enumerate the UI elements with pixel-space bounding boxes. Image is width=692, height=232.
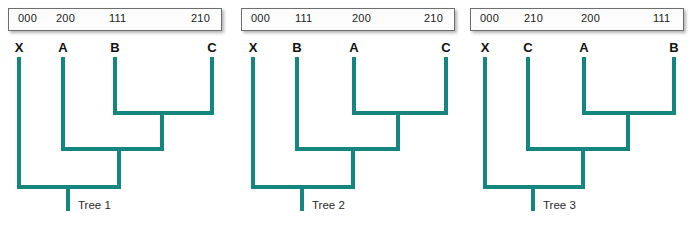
state-row-box-3: 000 210 200 111 <box>470 8 684 31</box>
state-code: 111 <box>295 12 312 24</box>
taxon-label-a: A <box>576 40 592 55</box>
branch-root-stem <box>531 185 535 211</box>
state-code: 111 <box>653 12 670 24</box>
state-code: 200 <box>56 12 75 24</box>
taxon-label-c: C <box>520 40 536 55</box>
tree-panel-1: 000 200 111 210 X A B C Tree 1 <box>0 0 232 232</box>
branch-stem-abc <box>117 147 121 189</box>
taxon-label-c: C <box>204 40 220 55</box>
state-row-box-1: 000 200 111 210 <box>8 8 222 31</box>
branch-root-stem <box>66 185 70 211</box>
state-code: 000 <box>480 12 499 24</box>
state-code: 000 <box>251 12 270 24</box>
tree-caption: Tree 3 <box>543 199 576 211</box>
state-code: 000 <box>18 12 37 24</box>
branch-node-ac <box>352 111 448 115</box>
state-row-box-2: 000 111 200 210 <box>241 8 455 31</box>
taxon-label-x: X <box>477 40 493 55</box>
state-code: 200 <box>352 12 371 24</box>
branch-node-abc <box>61 147 164 151</box>
state-code: 210 <box>424 12 443 24</box>
branch-stem-bc <box>160 111 164 151</box>
tree-caption: Tree 2 <box>312 199 345 211</box>
cladogram-figure: 000 200 111 210 X A B C Tree 1 000 111 2… <box>0 0 692 232</box>
state-code: 111 <box>109 12 126 24</box>
taxon-label-c: C <box>438 40 454 55</box>
branch-tip-b <box>672 57 676 115</box>
taxon-label-a: A <box>55 40 71 55</box>
taxon-label-b: B <box>289 40 305 55</box>
branch-tip-x <box>17 57 21 187</box>
branch-tip-c <box>526 57 530 151</box>
tree-panel-2: 000 111 200 210 X B A C Tree 2 <box>234 0 466 232</box>
branch-tip-b <box>113 57 117 115</box>
branch-tip-a <box>352 57 356 115</box>
branch-node-bac <box>295 147 400 151</box>
branch-node-cab <box>526 147 630 151</box>
state-code: 210 <box>191 12 210 24</box>
tree-caption: Tree 1 <box>78 199 111 211</box>
state-code: 210 <box>524 12 543 24</box>
branch-stem-bac <box>351 147 355 189</box>
state-code: 200 <box>581 12 600 24</box>
branch-stem-ab <box>626 111 630 151</box>
branch-tip-a <box>582 57 586 115</box>
taxon-label-a: A <box>346 40 362 55</box>
tree-panel-3: 000 210 200 111 X C A B Tree 3 <box>467 0 692 232</box>
branch-tip-b <box>295 57 299 151</box>
taxon-label-x: X <box>11 40 27 55</box>
branch-stem-ac <box>396 111 400 151</box>
taxon-label-b: B <box>666 40 682 55</box>
branch-stem-cab <box>581 147 585 189</box>
branch-tip-c <box>444 57 448 115</box>
branch-tip-c <box>210 57 214 115</box>
branch-root-stem <box>300 185 304 211</box>
branch-tip-x <box>251 57 255 187</box>
taxon-label-x: X <box>245 40 261 55</box>
branch-tip-x <box>483 57 487 187</box>
branch-tip-a <box>61 57 65 151</box>
taxon-label-b: B <box>107 40 123 55</box>
